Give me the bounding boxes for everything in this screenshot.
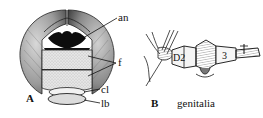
frons-upper bbox=[42, 50, 92, 70]
label-cl: cl bbox=[101, 84, 109, 95]
abdominal-segment-2-bulge bbox=[196, 40, 216, 70]
panel-letter-b: B bbox=[151, 98, 158, 109]
panel-letter-a: A bbox=[26, 93, 34, 104]
label-an: an bbox=[118, 12, 128, 23]
antennal-dark-patch bbox=[48, 31, 86, 48]
segment-label-2: D2 bbox=[173, 52, 185, 63]
genitalia-structure bbox=[200, 68, 210, 74]
segment-label-3: 3 bbox=[222, 50, 227, 61]
panel-b-abdomen: D2 3 B genitalia bbox=[140, 0, 263, 118]
genitalia-caption: genitalia bbox=[177, 98, 215, 109]
label-f: f bbox=[118, 57, 122, 68]
label-lb: lb bbox=[101, 98, 110, 109]
panel-a-head-frontal: an f cl lb A bbox=[0, 0, 140, 118]
abdominal-segment-4 bbox=[236, 48, 260, 58]
labium bbox=[48, 94, 86, 105]
